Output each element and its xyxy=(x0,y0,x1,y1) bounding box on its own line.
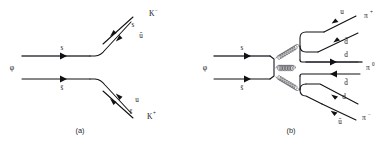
caption-a: (a) xyxy=(75,126,84,135)
label-b-dbar-1: d̄ xyxy=(344,37,348,46)
label-b-pi-plus-superscript: + xyxy=(370,9,373,15)
arrow-a-s-out xyxy=(110,30,117,37)
label-b-d-3: d xyxy=(342,93,346,101)
arrow-b-d-out-low xyxy=(331,95,338,100)
label-b-pi-minus: π − xyxy=(362,111,371,122)
label-a-sbar-bottom: s̄ xyxy=(60,84,64,92)
label-a-ubar-out: ū xyxy=(139,32,143,40)
label-b-pi-minus-superscript: − xyxy=(368,111,371,117)
label-b-pi-zero: π 0 xyxy=(366,61,375,72)
line-a-vertex-lower xyxy=(90,79,131,113)
diagram-a: φ s s̄ s ū K − u s̄ K + (a) xyxy=(0,0,196,144)
label-b-pi-minus-symbol: π xyxy=(362,113,366,122)
arrow-b-ubar-out-low xyxy=(331,111,338,116)
label-a-s-top: s xyxy=(61,44,64,52)
label-a-sbar-out: s̄ xyxy=(129,108,133,116)
arrow-b-u-out xyxy=(332,19,339,24)
label-b-s-top: s xyxy=(241,44,244,52)
arrow-b-sbar-in xyxy=(244,76,251,83)
label-b-pi-plus: π + xyxy=(364,9,373,20)
line-b-hook-upper xyxy=(300,32,324,52)
arrow-b-s-in xyxy=(244,53,251,60)
line-a-vertex-upper xyxy=(90,22,131,56)
arrow-a-sbar-in xyxy=(60,76,67,83)
arrow-b-d-out-mid xyxy=(330,59,337,66)
arrow-b-dbar-out-mid xyxy=(330,71,337,78)
label-a-k-minus: K − xyxy=(149,7,158,18)
label-b-ubar-3: ū xyxy=(338,118,342,126)
arrow-a-u-out xyxy=(110,99,117,106)
gluon-middle xyxy=(276,65,296,70)
label-b-pi-zero-superscript: 0 xyxy=(372,61,375,67)
label-a-k-minus-superscript: − xyxy=(155,7,158,13)
label-a-k-plus: K + xyxy=(147,110,156,121)
arrow-a-ubar-out xyxy=(116,35,123,42)
diagram-b: φ s s̄ u π + d̄ d π 0 d̄ d ū π − (b) xyxy=(196,0,392,144)
feynman-figure: φ s s̄ s ū K − u s̄ K + (a) xyxy=(0,0,392,144)
line-b-hook-lower xyxy=(300,76,322,104)
line-b-d-out-low xyxy=(306,84,358,104)
label-b-phi: φ xyxy=(203,63,208,72)
label-b-sbar-bottom: s̄ xyxy=(240,84,244,92)
label-a-s-out: s xyxy=(132,21,135,29)
caption-b: (b) xyxy=(286,126,295,135)
gluon-lower xyxy=(276,76,299,91)
line-b-annihilation-vertex xyxy=(270,56,274,79)
label-a-phi: φ xyxy=(10,63,15,72)
label-b-pi-plus-symbol: π xyxy=(364,11,368,20)
arrow-a-sbar-out xyxy=(116,93,123,100)
label-a-k-plus-superscript: + xyxy=(153,110,156,116)
label-b-dbar-2: d̄ xyxy=(344,78,348,87)
label-b-u-1: u xyxy=(340,8,344,16)
gluon-upper xyxy=(276,44,299,59)
label-b-pi-zero-symbol: π xyxy=(366,63,370,72)
line-b-hook-lower-top xyxy=(300,84,306,90)
arrow-a-s-in xyxy=(60,53,67,60)
label-a-u-out: u xyxy=(135,96,139,104)
label-b-d-2: d xyxy=(344,51,348,59)
line-b-dbar-out xyxy=(318,33,358,52)
line-b-u-out xyxy=(324,16,356,32)
line-b-dbar-out-mid xyxy=(300,74,360,76)
